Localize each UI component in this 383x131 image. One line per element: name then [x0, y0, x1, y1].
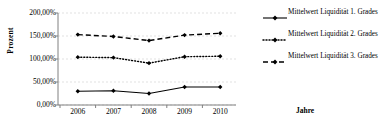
data-point-marker: [182, 85, 186, 89]
x-axis-tick-label: 2009: [165, 107, 205, 117]
y-axis-tick-label: 0,00%: [12, 101, 56, 109]
data-point-marker: [182, 55, 186, 59]
data-point-marker: [147, 38, 151, 42]
data-point-marker: [111, 89, 115, 93]
series-3: [76, 31, 223, 43]
series-2: [76, 54, 223, 65]
chart-container: Prozent 0,00%50,00%100,00%150,00%200,00%…: [0, 0, 383, 131]
legend-marker-solid-icon: [262, 9, 288, 19]
legend-marker-dotted-icon: [262, 31, 288, 41]
chart-legend: Mittelwert Liquidität 1. GradesMittelwer…: [262, 8, 383, 74]
legend-marker-dashed-icon: [262, 53, 288, 63]
x-axis-tick-label: 2006: [58, 107, 98, 117]
plot-area: [58, 13, 236, 105]
x-axis-tick-label: 2008: [129, 107, 169, 117]
y-axis-tick-labels: 0,00%50,00%100,00%150,00%200,00%: [10, 0, 56, 131]
y-axis-tick-label: 200,00%: [12, 9, 56, 17]
x-axis-tick-label: 2010: [200, 107, 240, 117]
y-axis-tick-label: 100,00%: [12, 55, 56, 63]
x-axis-tick-labels: 20062007200820092010: [58, 107, 236, 121]
data-point-marker: [218, 31, 222, 35]
x-axis-title: Jahre: [296, 106, 314, 115]
series-1: [76, 85, 223, 96]
legend-entry-2[interactable]: Mittelwert Liquidität 2. Grades: [262, 30, 383, 47]
y-axis-tick-label: 150,00%: [12, 32, 56, 40]
y-axis-tick-label: 50,00%: [12, 78, 56, 86]
data-point-marker: [182, 33, 186, 37]
data-point-marker: [111, 34, 115, 38]
data-point-marker: [147, 61, 151, 65]
data-point-marker: [218, 85, 222, 89]
x-axis-tick-label: 2007: [93, 107, 133, 117]
data-point-marker: [218, 54, 222, 58]
data-point-marker: [147, 91, 151, 95]
chart-plot-svg: [58, 13, 236, 105]
legend-label: Mittelwert Liquidität 1. Grades: [288, 8, 380, 17]
legend-label: Mittelwert Liquidität 3. Grades: [288, 52, 380, 61]
legend-entry-3[interactable]: Mittelwert Liquidität 3. Grades: [262, 52, 383, 69]
data-point-marker: [76, 89, 80, 93]
legend-entry-1[interactable]: Mittelwert Liquidität 1. Grades: [262, 8, 383, 25]
legend-label: Mittelwert Liquidität 2. Grades: [288, 30, 380, 39]
